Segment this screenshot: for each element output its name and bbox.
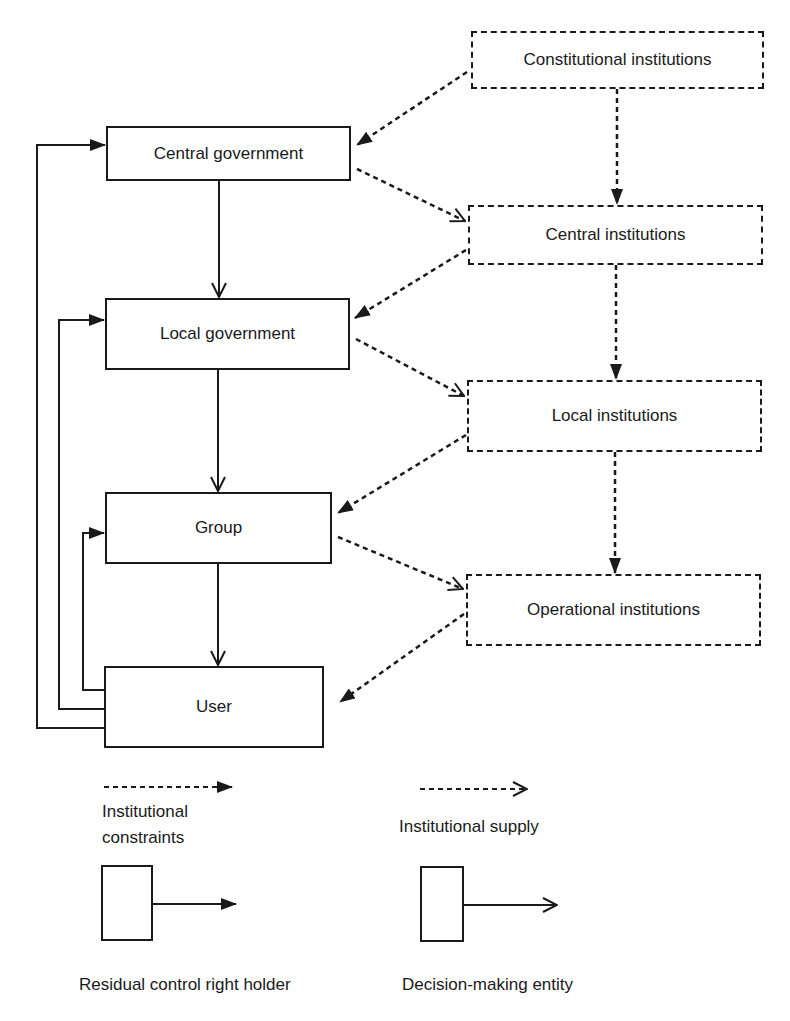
central-institutions-box: Central institutions (468, 205, 763, 265)
feedback-user-to-local_gov (59, 320, 104, 709)
institution-chain-arrows (615, 89, 617, 573)
constitutional-institutions-box: Constitutional institutions (471, 31, 764, 89)
constraint-constitutional-to-central_gov (357, 72, 467, 145)
constraint-local_inst-to-group (338, 435, 466, 513)
central-institutions-label: Central institutions (546, 225, 686, 245)
central-government-label: Central government (154, 144, 303, 164)
legend-supply-label: Institutional supply (399, 814, 539, 840)
central-government-box: Central government (106, 126, 351, 181)
feedback-user-to-central_gov (37, 145, 105, 728)
legend-decision-label: Decision-making entity (402, 972, 573, 998)
operational-institutions-box: Operational institutions (466, 574, 761, 646)
feedback-arrows (37, 145, 105, 728)
supply-group-to-operational (338, 537, 463, 589)
constitutional-institutions-label: Constitutional institutions (523, 50, 711, 70)
legend-decision-box (421, 867, 463, 941)
legend-residual-label: Residual control right holder (79, 972, 291, 998)
legend-residual-box (102, 866, 152, 940)
feedback-user-to-group (83, 533, 104, 690)
user-label: User (196, 697, 232, 717)
constraint-central_inst-to-local_gov (355, 250, 466, 318)
user-box: User (104, 666, 324, 748)
constraint-operational-to-user (340, 614, 464, 702)
local-institutions-label: Local institutions (552, 406, 678, 426)
local-government-label: Local government (160, 324, 295, 344)
supply-local_gov-to-local_inst (356, 339, 464, 396)
local-institutions-box: Local institutions (467, 380, 762, 452)
local-government-box: Local government (105, 298, 350, 370)
operational-institutions-label: Operational institutions (527, 600, 700, 620)
institutional-supply-arrows (338, 169, 465, 589)
group-box: Group (105, 492, 332, 564)
group-label: Group (195, 518, 242, 538)
hierarchy-arrows (218, 181, 219, 665)
legend-constraints-label-line2: constraints (102, 825, 184, 851)
legend-constraints-label-line1: Institutional (102, 799, 188, 825)
supply-central_gov-to-central_inst (357, 169, 465, 221)
